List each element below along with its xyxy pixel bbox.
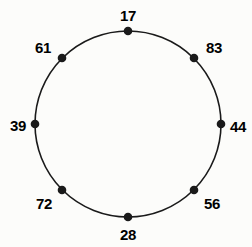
node-label: 17 bbox=[120, 8, 136, 23]
node-dot-group bbox=[31, 27, 226, 222]
node-dot[interactable] bbox=[58, 54, 67, 63]
node-label: 28 bbox=[120, 227, 136, 242]
node-dot[interactable] bbox=[124, 27, 133, 36]
node-dot[interactable] bbox=[31, 120, 40, 129]
node-label: 83 bbox=[206, 40, 222, 55]
node-label: 61 bbox=[35, 40, 51, 55]
circle-diagram-canvas: 1783445628723961 bbox=[0, 0, 252, 247]
node-label: 44 bbox=[230, 119, 246, 134]
node-label: 56 bbox=[204, 196, 220, 211]
node-dot[interactable] bbox=[190, 54, 199, 63]
node-dot[interactable] bbox=[124, 213, 133, 222]
node-label: 39 bbox=[10, 118, 26, 133]
node-dot[interactable] bbox=[190, 186, 199, 195]
node-dot[interactable] bbox=[58, 186, 67, 195]
node-dot[interactable] bbox=[217, 120, 226, 129]
node-label: 72 bbox=[36, 196, 52, 211]
